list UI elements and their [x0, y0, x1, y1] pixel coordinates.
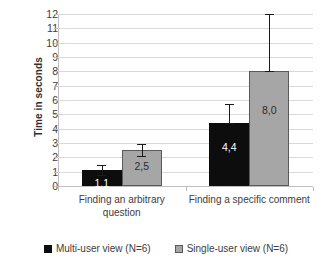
bar-value-label: 8,0: [249, 105, 289, 116]
x-category-label: Finding an arbitraryquestion: [58, 194, 186, 219]
error-bar-cap-top: [265, 14, 274, 15]
gridline: [58, 57, 313, 58]
gridline: [58, 43, 313, 44]
error-bar: [142, 144, 143, 155]
bar-multi-user: [209, 123, 249, 186]
plot-area: 1,12,54,48,0: [58, 14, 313, 186]
legend-item[interactable]: Multi-user view (N=6): [44, 243, 151, 254]
error-bar-cap-top: [225, 104, 234, 105]
error-bar-cap-bottom: [97, 175, 106, 176]
gridline: [58, 14, 313, 15]
error-bar-cap-bottom: [265, 71, 274, 72]
legend-swatch-multi-icon: [44, 245, 52, 253]
error-bar-cap-top: [97, 165, 106, 166]
error-bar: [269, 14, 270, 71]
bar-value-label: 4,4: [209, 142, 249, 153]
legend-label: Single-user view (N=6): [187, 243, 288, 254]
y-axis-ticks: 1211109876543210: [30, 14, 58, 187]
bar-value-label: 2,5: [122, 161, 162, 172]
bar-single-user: [249, 71, 289, 186]
x-category-label-line: Finding an arbitrary: [58, 194, 186, 207]
x-category-label-line: question: [58, 207, 186, 220]
gridline: [58, 28, 313, 29]
chart-legend: Multi-user view (N=6)Single-user view (N…: [0, 243, 332, 254]
error-bar: [229, 104, 230, 123]
error-bar-cap-bottom: [225, 123, 234, 124]
error-bar-cap-bottom: [137, 156, 146, 157]
legend-item[interactable]: Single-user view (N=6): [175, 243, 288, 254]
bar-chart: Time in seconds 1211109876543210 1,12,54…: [0, 0, 332, 274]
x-tick-mark: [313, 187, 314, 191]
x-tick-mark: [186, 187, 187, 191]
x-category-label-line: Finding a specific comment: [186, 194, 314, 207]
bar-value-label: 1,1: [82, 178, 122, 189]
error-bar: [102, 165, 103, 175]
x-category-label: Finding a specific comment: [186, 194, 314, 207]
legend-swatch-single-icon: [175, 245, 183, 253]
legend-label: Multi-user view (N=6): [56, 243, 151, 254]
error-bar-cap-top: [137, 144, 146, 145]
x-tick-mark: [58, 187, 59, 191]
